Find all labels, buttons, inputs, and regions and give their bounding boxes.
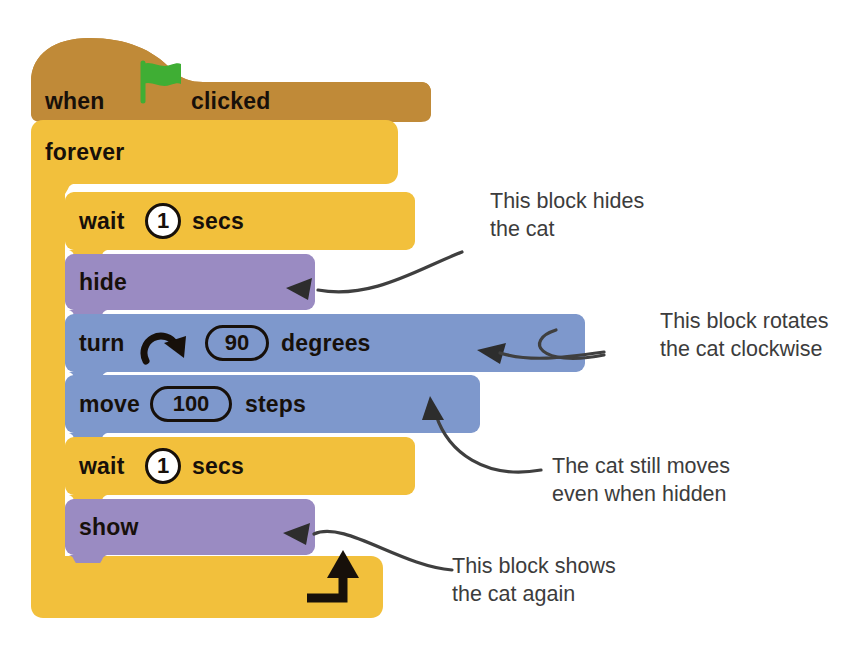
- hide-label: hide: [79, 271, 127, 294]
- turn-label-after: degrees: [281, 332, 371, 355]
- move-label-before: move: [79, 393, 140, 416]
- wait-label-before-2: wait: [79, 455, 125, 478]
- block-hide[interactable]: hide: [65, 254, 315, 310]
- wait-label-after-2: secs: [192, 455, 244, 478]
- green-flag-icon: [138, 60, 184, 108]
- wait-label-before-1: wait: [79, 210, 125, 233]
- annotation-turn: This block rotates the cat clockwise: [660, 307, 828, 364]
- block-wait-1-secs-second[interactable]: wait 1 secs: [65, 437, 415, 495]
- block-turn-90-degrees[interactable]: turn 90 degrees: [65, 314, 585, 372]
- block-when-green-flag-clicked[interactable]: when clicked: [31, 36, 433, 122]
- annotation-show: This block shows the cat again: [452, 552, 616, 609]
- hat-label-when: when: [45, 90, 105, 113]
- turn-degrees-input[interactable]: 90: [205, 325, 269, 361]
- show-label: show: [79, 516, 139, 539]
- wait-secs-input-1[interactable]: 1: [145, 203, 181, 239]
- block-wait-1-secs-first[interactable]: wait 1 secs: [65, 192, 415, 250]
- move-label-after: steps: [245, 393, 306, 416]
- block-move-100-steps[interactable]: move 100 steps: [65, 375, 480, 433]
- turn-label-before: turn: [79, 332, 125, 355]
- forever-label: forever: [45, 141, 124, 164]
- hat-label-clicked: clicked: [191, 90, 270, 113]
- wait-label-after-1: secs: [192, 210, 244, 233]
- wait-secs-input-2[interactable]: 1: [145, 448, 181, 484]
- move-steps-input[interactable]: 100: [150, 386, 232, 422]
- annotation-hide: This block hides the cat: [490, 187, 644, 244]
- annotation-move: The cat still moves even when hidden: [552, 452, 730, 509]
- turn-clockwise-icon: [136, 323, 194, 369]
- scratch-script-diagram: when clicked forever: [0, 0, 866, 657]
- block-show[interactable]: show: [65, 499, 315, 555]
